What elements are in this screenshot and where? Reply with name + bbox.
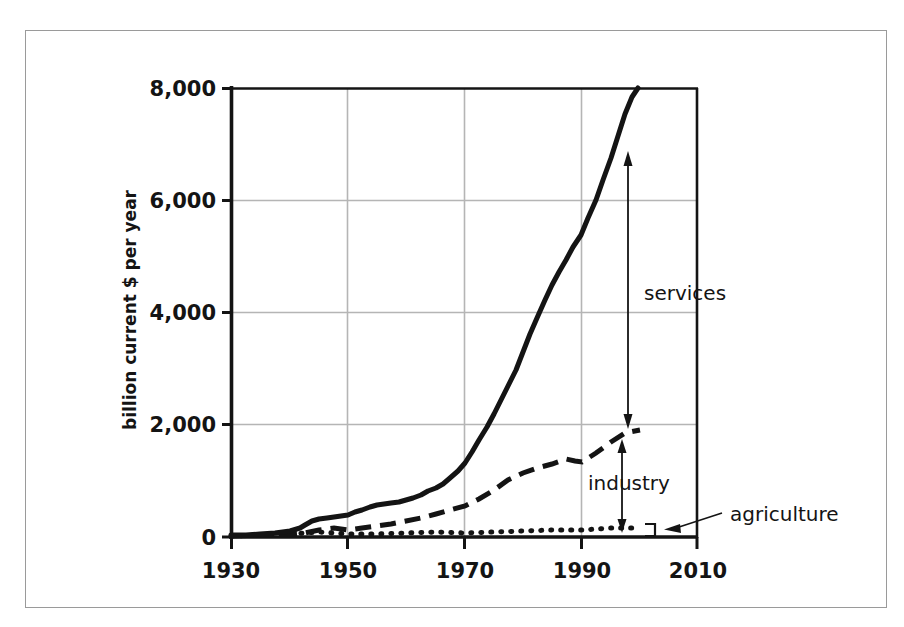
x-tick-label: 1990 xyxy=(553,559,611,583)
y-axis-title: billion current $ per year xyxy=(120,189,140,430)
y-tick-label: 4,000 xyxy=(150,301,216,325)
series-label-services: services xyxy=(644,281,726,305)
chart-canvas: 8,000 6,000 4,000 2,000 0 1930 1950 1970… xyxy=(0,0,904,627)
y-tick-labels: 8,000 6,000 4,000 2,000 0 xyxy=(150,77,216,550)
x-tick-labels: 1930 1950 1970 1990 2010 xyxy=(202,559,727,583)
series-label-industry: industry xyxy=(588,471,670,495)
figure-container: 8,000 6,000 4,000 2,000 0 1930 1950 1970… xyxy=(0,0,904,627)
y-tick-label: 0 xyxy=(201,526,216,550)
y-tick-label: 2,000 xyxy=(150,413,216,437)
x-tick-label: 1950 xyxy=(319,559,377,583)
annotation-leader-agriculture xyxy=(664,513,722,533)
x-tick-label: 1930 xyxy=(202,559,260,583)
series-line-services xyxy=(231,88,638,535)
y-tick-label: 6,000 xyxy=(150,189,216,213)
series-label-agriculture: agriculture xyxy=(730,502,839,526)
x-tick-label: 2010 xyxy=(669,559,727,583)
y-tick-label: 8,000 xyxy=(150,77,216,101)
annotation-bracket-agriculture xyxy=(645,524,655,536)
annotation-arrow-services xyxy=(624,151,633,429)
series-line-industry xyxy=(231,430,640,536)
x-tick-label: 1970 xyxy=(436,559,494,583)
